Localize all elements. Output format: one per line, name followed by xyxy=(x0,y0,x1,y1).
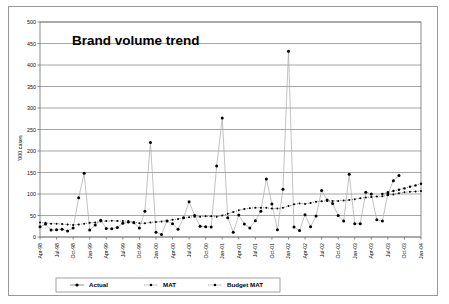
data-point xyxy=(127,220,129,222)
x-tick-label: Oct-00 xyxy=(203,243,209,259)
x-tick-label: Jan-00 xyxy=(153,243,159,259)
data-point xyxy=(381,193,383,195)
data-point xyxy=(392,179,395,182)
data-point xyxy=(177,218,179,220)
data-point xyxy=(353,222,356,225)
data-point xyxy=(199,225,202,228)
data-point xyxy=(116,226,119,229)
data-point xyxy=(72,226,75,229)
data-point xyxy=(77,196,80,199)
data-point xyxy=(160,233,163,236)
data-point xyxy=(160,221,162,223)
x-tick-label: Apr-02 xyxy=(302,243,308,259)
data-point xyxy=(271,208,273,210)
x-tick-label: Apr-03 xyxy=(368,243,374,259)
data-point xyxy=(287,205,289,207)
data-point xyxy=(354,198,356,200)
data-point xyxy=(188,200,191,203)
x-tick-label: Jan-04 xyxy=(418,243,424,259)
data-point xyxy=(243,223,246,226)
x-tick-label: Jul-99 xyxy=(120,243,126,257)
x-tick-label: Jan-01 xyxy=(219,243,225,259)
data-point xyxy=(309,225,312,228)
brand-volume-trend-chart: 050100150200250300350400450500'000 cases… xyxy=(0,0,449,304)
data-point xyxy=(387,191,389,193)
x-tick-label: Jan-99 xyxy=(87,243,93,259)
data-point xyxy=(276,208,278,210)
data-point xyxy=(89,222,91,224)
data-point xyxy=(39,221,41,223)
legend-label: Budget MAT xyxy=(227,281,263,288)
data-point xyxy=(183,217,185,219)
data-point xyxy=(348,173,351,176)
data-point xyxy=(293,226,296,229)
data-point xyxy=(238,209,240,211)
data-point xyxy=(310,202,312,204)
data-point xyxy=(359,197,361,199)
chart-title: Brand volume trend xyxy=(72,33,200,48)
data-point xyxy=(315,214,318,217)
legend-label: MAT xyxy=(163,281,176,288)
data-point xyxy=(398,189,400,191)
y-tick-label: 450 xyxy=(27,41,36,47)
data-point xyxy=(105,227,108,230)
data-point xyxy=(343,199,345,201)
data-point xyxy=(149,141,152,144)
data-point xyxy=(172,219,174,221)
data-point xyxy=(110,227,113,230)
data-point xyxy=(56,223,58,225)
data-point xyxy=(392,193,394,195)
data-point xyxy=(337,214,340,217)
data-point xyxy=(61,223,63,225)
data-point xyxy=(326,200,328,202)
data-point xyxy=(381,195,383,197)
data-point xyxy=(105,220,107,222)
data-point xyxy=(248,226,251,229)
x-tick-label: Jan-03 xyxy=(352,243,358,259)
data-point xyxy=(154,231,157,234)
y-tick-label: 250 xyxy=(27,127,36,133)
data-point xyxy=(67,224,69,226)
data-point xyxy=(332,200,334,202)
y-tick-label: 200 xyxy=(27,148,36,154)
data-point xyxy=(100,221,102,223)
data-point xyxy=(78,224,80,226)
data-point xyxy=(243,208,245,210)
x-tick-label: Apr-00 xyxy=(170,243,176,259)
data-point xyxy=(205,215,207,217)
series-budget-mat xyxy=(381,182,422,195)
y-tick-label: 150 xyxy=(27,170,36,176)
x-tick-label: Jan-02 xyxy=(285,243,291,259)
data-point xyxy=(375,218,378,221)
data-point xyxy=(188,216,190,218)
data-point xyxy=(232,211,234,213)
data-point xyxy=(320,189,323,192)
y-tick-label: 300 xyxy=(27,105,36,111)
data-point xyxy=(61,228,64,231)
data-point xyxy=(171,222,174,225)
data-point xyxy=(276,228,279,231)
data-point xyxy=(403,187,405,189)
data-point xyxy=(155,221,157,223)
data-point xyxy=(177,228,180,231)
x-axis-ticks: Apr-98Jul-98Oct-98Jan-99Apr-99Jul-99Oct-… xyxy=(37,237,424,259)
data-point xyxy=(111,220,113,222)
data-point xyxy=(66,229,69,232)
data-point xyxy=(348,199,350,201)
data-point xyxy=(94,221,96,223)
data-point xyxy=(304,203,306,205)
y-tick-label: 400 xyxy=(27,62,36,68)
data-point xyxy=(342,220,345,223)
series-actual xyxy=(39,50,401,236)
y-tick-label: 350 xyxy=(27,84,36,90)
data-point xyxy=(370,196,372,198)
legend-label: Actual xyxy=(89,281,108,288)
data-point xyxy=(210,215,212,217)
x-tick-label: Oct-01 xyxy=(269,243,275,259)
data-point xyxy=(370,193,373,196)
data-point xyxy=(259,210,262,213)
data-point xyxy=(299,202,301,204)
data-point xyxy=(409,191,411,193)
data-point xyxy=(216,216,218,218)
chart-container: 050100150200250300350400450500'000 cases… xyxy=(0,0,449,304)
